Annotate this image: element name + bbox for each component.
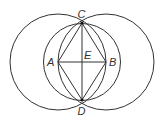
label-c: C — [78, 8, 86, 20]
label-b: B — [109, 56, 116, 68]
geometry-diagram: C D A B E — [0, 0, 162, 123]
label-e: E — [84, 49, 92, 61]
label-d: D — [78, 105, 86, 117]
label-a: A — [46, 56, 54, 68]
point-c-dot — [80, 21, 83, 24]
point-d-dot — [80, 98, 83, 101]
